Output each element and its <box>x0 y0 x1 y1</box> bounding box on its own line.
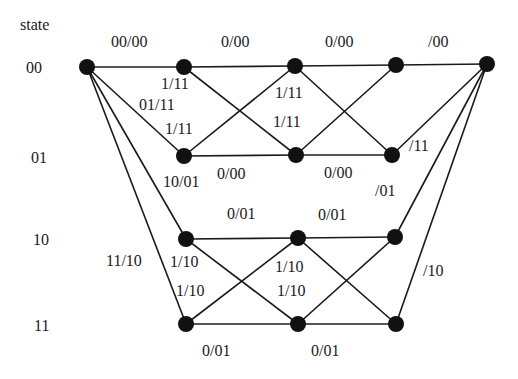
state-node <box>288 147 304 163</box>
trellis-edge <box>296 65 396 155</box>
state-node <box>388 57 404 73</box>
edge-label: 0/00 <box>325 34 353 50</box>
trellis-edge <box>295 65 396 66</box>
edge-label: 11/10 <box>106 253 142 269</box>
edge-label: 0/01 <box>318 207 346 223</box>
state-node <box>79 59 95 75</box>
state-label: 10 <box>33 232 49 248</box>
edge-label: /11 <box>409 138 429 154</box>
trellis-edge <box>392 64 487 155</box>
trellis-edge <box>184 155 296 156</box>
edge-label: /01 <box>375 183 395 199</box>
state-label: 01 <box>31 150 47 166</box>
state-node <box>178 231 194 247</box>
edge-label: 0/01 <box>311 343 339 359</box>
edge-label: 0/00 <box>221 34 249 50</box>
trellis-diagram <box>0 0 518 379</box>
trellis-edge <box>396 64 487 65</box>
trellis-edge <box>186 238 298 239</box>
trellis-edge <box>396 64 487 324</box>
state-label: state <box>20 17 49 33</box>
state-node <box>384 147 400 163</box>
edge-label: 1/11 <box>165 121 193 137</box>
state-node <box>176 59 192 75</box>
trellis-edge <box>298 237 395 238</box>
edge-label: 1/10 <box>170 254 198 270</box>
state-node <box>178 316 194 332</box>
state-node <box>290 230 306 246</box>
state-node <box>479 56 495 72</box>
state-label: 00 <box>26 60 42 76</box>
edge-label: 1/11 <box>161 76 189 92</box>
edge-label: 1/10 <box>176 283 204 299</box>
edge-label: 10/01 <box>163 174 199 190</box>
state-node <box>387 229 403 245</box>
edge-label: 0/01 <box>227 206 255 222</box>
edge-label: /10 <box>423 263 443 279</box>
state-node <box>388 316 404 332</box>
state-node <box>290 316 306 332</box>
edge-label: 01/11 <box>139 97 175 113</box>
state-label: 11 <box>34 318 49 334</box>
edge-label: 0/01 <box>202 343 230 359</box>
edge-label: 1/10 <box>277 283 305 299</box>
edge-label: 00/00 <box>111 34 147 50</box>
edge-label: /00 <box>428 34 448 50</box>
trellis-edge <box>184 66 295 67</box>
state-node <box>287 58 303 74</box>
trellis-edge <box>295 66 392 155</box>
trellis-edge <box>87 67 186 239</box>
edge-label: 1/10 <box>275 259 303 275</box>
edge-label: 1/11 <box>275 85 303 101</box>
edge-label: 1/11 <box>273 114 301 130</box>
edge-label: 0/00 <box>324 165 352 181</box>
edge-label: 0/00 <box>217 166 245 182</box>
state-node <box>176 148 192 164</box>
